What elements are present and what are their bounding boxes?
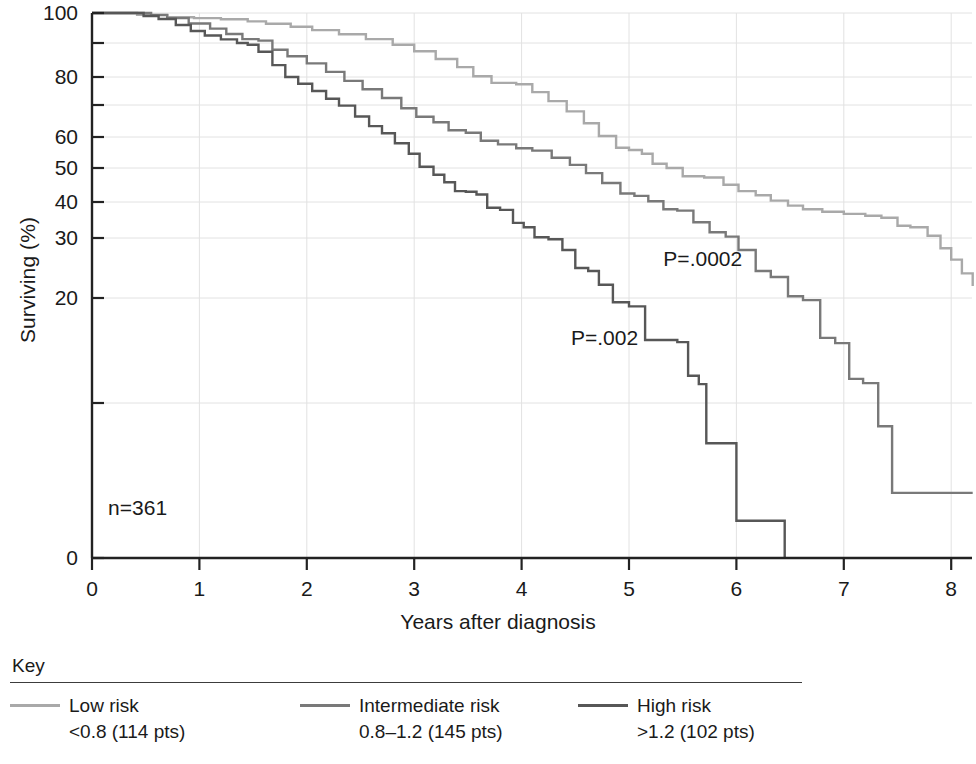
survival-chart-figure: Surviving (%) 0203040506080100 012345678… [0, 0, 976, 764]
x-axis-title-text: Years after diagnosis [400, 610, 595, 634]
x-tick-label: 6 [716, 578, 756, 599]
legend-entry-row: High risk [578, 695, 798, 717]
survival-curves [92, 13, 973, 558]
legend-entry-row: Intermediate risk [300, 695, 578, 717]
legend-title: Key [10, 655, 802, 682]
x-tick-label: 0 [72, 578, 112, 599]
legend-sublabel: 0.8–1.2 (145 pts) [359, 721, 578, 743]
legend-line-swatch [300, 704, 350, 707]
y-tick-label: 50 [18, 157, 78, 178]
y-tick-label: 60 [18, 126, 78, 147]
x-tick-label: 8 [931, 578, 971, 599]
legend-entry: High risk>1.2 (102 pts) [578, 695, 798, 743]
plot-area: Surviving (%) 0203040506080100 012345678… [0, 0, 976, 600]
legend-entry: Low risk<0.8 (114 pts) [10, 695, 300, 743]
y-tick-label: 40 [18, 191, 78, 212]
legend-label: High risk [637, 695, 711, 717]
legend-sublabel: <0.8 (114 pts) [69, 721, 300, 743]
legend-divider [10, 682, 802, 683]
y-tick-label: 100 [18, 2, 78, 23]
chart-legend: Key Low risk<0.8 (114 pts)Intermediate r… [10, 655, 802, 743]
y-tick-label: 80 [18, 66, 78, 87]
legend-line-swatch [578, 704, 628, 707]
x-tick-label: 5 [609, 578, 649, 599]
legend-line-swatch [10, 704, 60, 707]
x-tick-label: 1 [179, 578, 219, 599]
survival-curve-high-risk [92, 13, 785, 558]
x-tick-label: 3 [394, 578, 434, 599]
axis-lines [92, 13, 972, 558]
y-tick-label: 20 [18, 287, 78, 308]
x-tick-label: 2 [287, 578, 327, 599]
y-tick-label: 30 [18, 227, 78, 248]
x-tick-label: 4 [502, 578, 542, 599]
annotation-p-value-intermediate: P=.0002 [663, 248, 742, 269]
annotation-p-value-high: P=.002 [571, 327, 638, 348]
legend-label: Low risk [69, 695, 139, 717]
legend-label: Intermediate risk [359, 695, 499, 717]
x-axis-title: Years after diagnosis [0, 610, 976, 634]
gridlines [92, 13, 972, 558]
legend-entries: Low risk<0.8 (114 pts)Intermediate risk0… [10, 695, 802, 743]
annotation-n-total: n=361 [108, 497, 167, 518]
legend-entry-row: Low risk [10, 695, 300, 717]
y-tick-label: 0 [18, 547, 78, 568]
x-tick-label: 7 [824, 578, 864, 599]
legend-entry: Intermediate risk0.8–1.2 (145 pts) [300, 695, 578, 743]
legend-sublabel: >1.2 (102 pts) [637, 721, 798, 743]
